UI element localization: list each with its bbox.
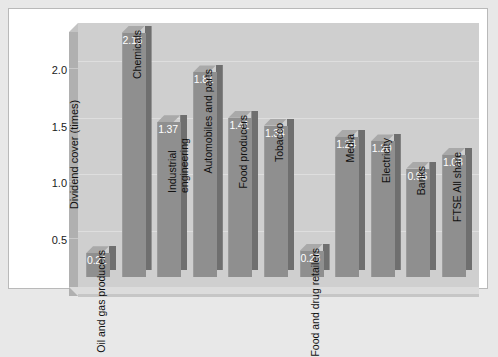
bar-side-face — [287, 119, 294, 270]
category-label: Automobiles and parts — [203, 69, 215, 173]
chart-figure: 0.51.01.52.0 0.212.161.371.811.411.340.2… — [8, 8, 488, 289]
bar-side-face — [465, 148, 472, 270]
category-label: Oil and gas producers — [96, 250, 108, 353]
category-label: Food and drug retailers — [310, 248, 322, 357]
plot-area: 0.51.01.52.0 0.212.161.371.811.411.340.2… — [69, 23, 479, 286]
bar-side-face — [394, 134, 401, 270]
bar-side-face — [251, 111, 258, 270]
category-label: Electricity — [381, 138, 393, 183]
bar-side-face — [216, 65, 223, 270]
y-tick-label: 0.5 — [27, 234, 67, 246]
category-label: FTSE All share — [452, 152, 464, 222]
category-label: Banks — [416, 166, 428, 195]
category-label: Food producers — [238, 115, 250, 189]
plot-floor-front — [78, 294, 479, 297]
y-tick-label: 1.5 — [27, 121, 67, 133]
category-label: Tobacco — [274, 123, 286, 162]
category-label: Media — [345, 134, 357, 163]
y-tick-label: 2.0 — [27, 64, 67, 76]
y-axis-title: Dividend cover (times) — [67, 23, 81, 286]
bar-side-face — [323, 244, 330, 270]
bar-side-face — [109, 246, 116, 270]
y-tick-label: 1.0 — [27, 177, 67, 189]
category-label: Chemicals — [132, 30, 144, 79]
bar-side-face — [145, 26, 152, 270]
bar-side-face — [429, 162, 436, 270]
bar-side-face — [358, 130, 365, 270]
category-label: Industrial engineering — [167, 119, 190, 193]
